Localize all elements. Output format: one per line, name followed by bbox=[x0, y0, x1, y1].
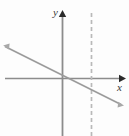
y-axis-arrowhead bbox=[59, 10, 66, 17]
line-left-arrowhead bbox=[3, 44, 9, 50]
line-right-arrowhead bbox=[118, 102, 124, 108]
x-axis-label: x bbox=[117, 82, 122, 93]
coordinate-plane-figure: y x bbox=[0, 0, 129, 136]
y-axis-label: y bbox=[53, 7, 58, 18]
plot-canvas bbox=[0, 0, 129, 136]
